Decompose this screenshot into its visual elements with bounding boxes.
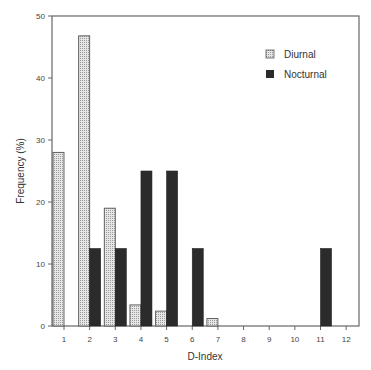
chart-canvas: 01020304050 123456789101112 Diurnal Noct… <box>0 0 371 370</box>
x-tick-label: 6 <box>190 335 195 344</box>
bar-nocturnal <box>90 249 101 327</box>
bar-diurnal <box>130 305 141 326</box>
y-tick-label: 0 <box>41 322 46 331</box>
bar-diurnal <box>104 208 115 326</box>
y-tick-label: 20 <box>36 198 45 207</box>
bar-diurnal <box>79 36 90 326</box>
legend: Diurnal Nocturnal <box>266 49 327 80</box>
x-tick-label: 3 <box>113 335 118 344</box>
legend-swatch-nocturnal <box>266 70 274 78</box>
bar-diurnal <box>207 319 218 326</box>
x-tick-label: 11 <box>316 335 325 344</box>
y-tick-label: 40 <box>36 74 45 83</box>
bar-nocturnal <box>141 171 152 326</box>
bar-diurnal <box>53 152 64 326</box>
bar-nocturnal <box>115 249 126 327</box>
x-axis: 123456789101112 <box>62 326 351 344</box>
x-tick-label: 8 <box>241 335 246 344</box>
y-axis-label: Frequency (%) <box>15 138 26 204</box>
x-tick-label: 2 <box>87 335 92 344</box>
legend-swatch-diurnal <box>266 50 274 58</box>
bar-nocturnal <box>192 249 203 327</box>
x-tick-label: 5 <box>164 335 169 344</box>
x-tick-label: 10 <box>290 335 299 344</box>
x-tick-label: 7 <box>216 335 221 344</box>
legend-label-nocturnal: Nocturnal <box>284 69 327 80</box>
y-tick-label: 10 <box>36 260 45 269</box>
y-axis: 01020304050 <box>36 12 52 331</box>
bar-diurnal <box>156 311 167 326</box>
x-tick-label: 4 <box>139 335 144 344</box>
y-tick-label: 50 <box>36 12 45 21</box>
y-tick-label: 30 <box>36 136 45 145</box>
x-tick-label: 9 <box>267 335 272 344</box>
x-axis-label: D-Index <box>187 351 222 362</box>
bar-nocturnal <box>167 171 178 326</box>
x-tick-label: 1 <box>62 335 67 344</box>
legend-label-diurnal: Diurnal <box>284 49 316 60</box>
x-tick-label: 12 <box>342 335 351 344</box>
bar-nocturnal <box>321 249 332 327</box>
